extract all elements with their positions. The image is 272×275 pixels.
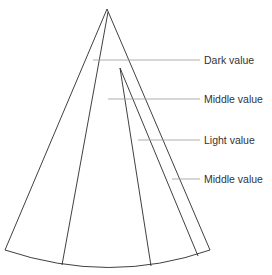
label-middle-value-2: Middle value [204,173,263,185]
cone-base-arc [5,250,210,268]
dark-region-boundary [62,12,108,265]
label-dark-value: Dark value [204,54,254,66]
label-light-value: Light value [204,134,255,146]
highlight-right-edge [120,68,198,256]
label-middle-value-1: Middle value [204,93,263,105]
cone-outline-left [5,9,107,250]
highlight-left-edge [120,68,151,266]
cone-outline-right [107,9,210,250]
